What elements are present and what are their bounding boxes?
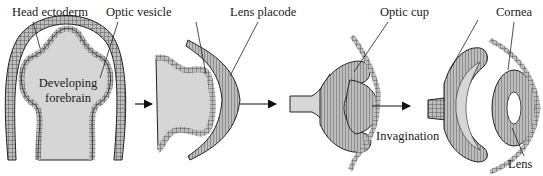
label-invagination: Invagination xyxy=(376,130,439,143)
label-optic-vesicle: Optic vesicle xyxy=(106,6,172,19)
label-forebrain: forebrain xyxy=(38,92,98,105)
label-cornea: Cornea xyxy=(496,6,532,19)
label-head-ectoderm: Head ectoderm xyxy=(12,6,88,19)
lens-lumen xyxy=(507,92,521,124)
optic-stalk-stage4 xyxy=(428,98,446,120)
label-lens-placode: Lens placode xyxy=(230,6,296,19)
stage-4-lens-and-cornea xyxy=(428,20,538,172)
label-lens: Lens xyxy=(508,158,532,171)
label-optic-cup: Optic cup xyxy=(380,6,429,19)
stage-2-lens-placode xyxy=(156,22,258,160)
label-developing: Developing xyxy=(38,77,98,90)
stage-3-optic-cup xyxy=(290,22,388,170)
